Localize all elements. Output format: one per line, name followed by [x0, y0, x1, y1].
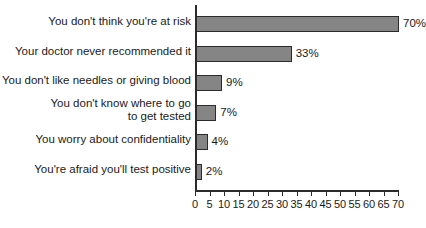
x-axis-tick-label: 70 [392, 198, 404, 210]
x-axis-tick [326, 191, 327, 196]
x-axis-tick-label: 35 [290, 198, 302, 210]
bar-value-label: 33% [296, 47, 319, 60]
x-axis-tick-label: 0 [192, 198, 198, 210]
bar-value-label: 9% [226, 76, 243, 89]
bar-row: You don't like needles or giving blood9% [0, 69, 425, 98]
x-axis-tick [210, 191, 211, 196]
bar-row: You're afraid you'll test positive2% [0, 158, 425, 187]
x-axis-tick [384, 191, 385, 196]
bar-value-label: 7% [220, 106, 237, 119]
bar [196, 16, 399, 32]
category-label: You're afraid you'll test positive [1, 163, 191, 176]
x-axis-tick [268, 191, 269, 196]
bar [196, 105, 216, 121]
category-label: Your doctor never recommended it [1, 45, 191, 58]
category-label: You worry about confidentiality [1, 133, 191, 146]
x-axis-tick-label: 50 [334, 198, 346, 210]
bar [196, 134, 208, 150]
x-axis-tick-label: 55 [348, 198, 360, 210]
x-axis-tick [340, 191, 341, 196]
x-axis-tick [224, 191, 225, 196]
x-axis-tick [311, 191, 312, 196]
x-axis-tick [355, 191, 356, 196]
x-axis-tick-label: 20 [247, 198, 259, 210]
x-axis-tick-label: 5 [206, 198, 212, 210]
x-axis-tick-label: 25 [261, 198, 273, 210]
bar-row: You don't know where to go to get tested… [0, 99, 425, 128]
x-axis-tick [398, 191, 399, 196]
bar-value-label: 2% [206, 165, 223, 178]
x-axis-tick [369, 191, 370, 196]
x-axis-tick-label: 40 [305, 198, 317, 210]
bar-row: You don't think you're at risk70% [0, 10, 425, 39]
x-axis-tick [239, 191, 240, 196]
bar-value-label: 4% [212, 135, 229, 148]
category-label: You don't know where to go to get tested [1, 97, 191, 123]
x-axis-tick [195, 191, 196, 196]
category-label: You don't like needles or giving blood [1, 74, 191, 87]
bar-value-label: 70% [403, 17, 426, 30]
x-axis-tick-label: 10 [218, 198, 230, 210]
bar-row: Your doctor never recommended it33% [0, 40, 425, 69]
x-axis-tick-label: 60 [363, 198, 375, 210]
bar [196, 75, 222, 91]
x-axis-tick-label: 30 [276, 198, 288, 210]
x-axis-tick [253, 191, 254, 196]
x-axis-tick [282, 191, 283, 196]
x-axis-tick-label: 15 [232, 198, 244, 210]
category-label: You don't think you're at risk [1, 15, 191, 28]
x-axis-tick-label: 45 [319, 198, 331, 210]
bar-row: You worry about confidentiality4% [0, 128, 425, 157]
bar [196, 46, 292, 62]
bar [196, 164, 202, 180]
x-axis-tick [297, 191, 298, 196]
x-axis-tick-label: 65 [377, 198, 389, 210]
